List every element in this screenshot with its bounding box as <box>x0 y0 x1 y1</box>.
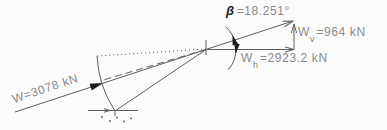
beta-value: =18.251° <box>237 4 290 18</box>
beta-symbol: β <box>226 3 235 18</box>
vertical-component-label: Wv=964 kN <box>298 25 366 43</box>
strut-line <box>115 50 206 112</box>
ground-dot <box>130 118 132 120</box>
beta-label: β=18.251° <box>226 4 290 18</box>
beta-angle-arc <box>225 27 236 70</box>
ground-dot <box>109 120 111 122</box>
ground-dot <box>116 117 118 119</box>
force-diagram: W=3078 kN β=18.251° Wv=964 kN Wh=2923.2 … <box>0 0 387 130</box>
ground-dot <box>101 116 103 118</box>
horizontal-component-label: Wh=2923.2 kN <box>241 51 328 69</box>
diagram-linework <box>0 0 387 130</box>
radius-dashed-line <box>100 50 206 82</box>
ground-dot <box>123 121 125 123</box>
